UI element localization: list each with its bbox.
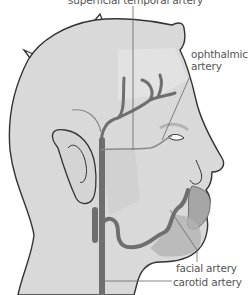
label-facial-artery: facial artery [176,262,237,274]
label-ophthalmic-line2: artery [191,60,248,72]
head-artery-illustration [0,0,250,295]
label-carotid-artery: carotid artery [173,276,242,288]
label-superficial-temporal-artery: superficial temporal artery [68,0,203,6]
label-ophthalmic-artery: ophthalmic artery [191,48,248,72]
label-ophthalmic-line1: ophthalmic [191,48,248,60]
